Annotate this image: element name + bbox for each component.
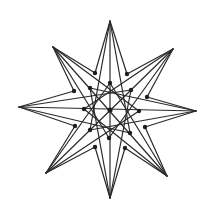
- inner-vertex: [88, 86, 92, 90]
- inner-vertex: [128, 131, 132, 135]
- notch-vertex: [93, 71, 97, 75]
- tip-chord: [110, 21, 130, 133]
- notch-vertex: [93, 145, 97, 149]
- inner-vertex: [88, 128, 92, 132]
- notch-vertex: [72, 89, 76, 93]
- tip-chord: [90, 88, 110, 198]
- inner-vertex: [108, 81, 112, 85]
- inner-vertex: [129, 88, 133, 92]
- notch-vertex: [145, 95, 149, 99]
- notch-vertex: [143, 125, 147, 129]
- star-vertices: [72, 71, 149, 150]
- center-vertex: [107, 107, 112, 112]
- inner-vertex: [137, 109, 141, 113]
- inner-vertex: [107, 136, 111, 140]
- tip-chord: [19, 107, 130, 133]
- star-outline-edge: [95, 21, 110, 73]
- notch-vertex: [125, 72, 129, 76]
- star-outline-edge: [19, 107, 75, 126]
- star-diagram: [0, 0, 207, 212]
- notch-vertex: [73, 124, 77, 128]
- inner-vertex: [82, 107, 86, 111]
- notch-vertex: [123, 146, 127, 150]
- star-outline-edge: [110, 148, 125, 198]
- star-outline-edge: [19, 91, 74, 107]
